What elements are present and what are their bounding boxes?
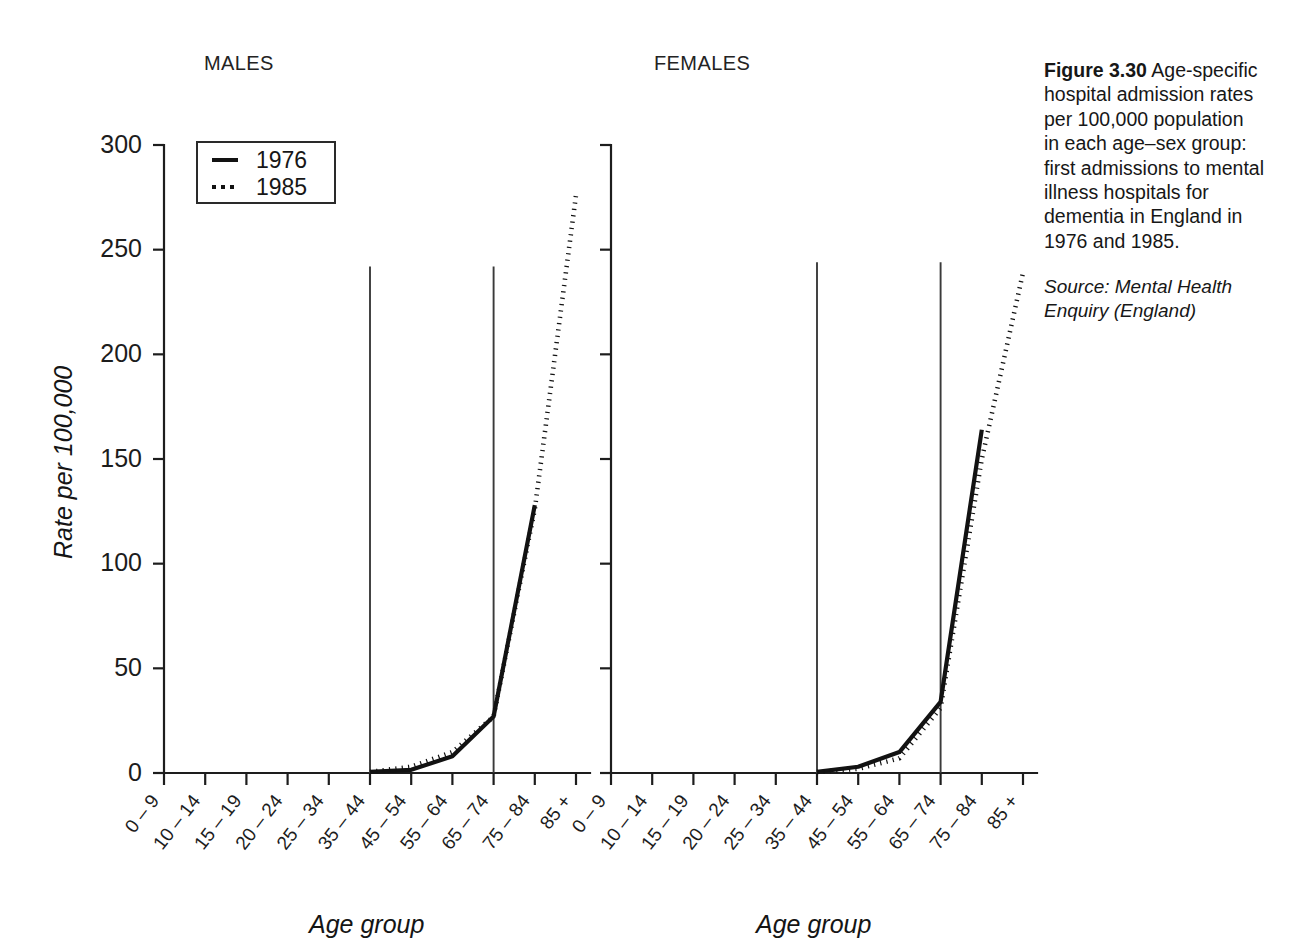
y-axis-tick-label: 300 — [100, 130, 142, 158]
data-series-1985 — [817, 273, 1023, 772]
legend-item-1976: 1976 — [208, 147, 307, 173]
legend-item-1985: 1985 — [208, 174, 307, 200]
y-axis-tick-label: 0 — [128, 758, 142, 786]
legend: 1976 1985 — [196, 141, 336, 204]
y-axis-tick-label: 200 — [100, 339, 142, 367]
legend-label-1976: 1976 — [256, 149, 307, 172]
chart-females: 0 – 910 – 1415 – 1920 – 2425 – 3435 – 44… — [447, 0, 1087, 900]
females-plot: 0 – 910 – 1415 – 1920 – 2425 – 3435 – 44… — [568, 145, 1037, 938]
y-axis-tick-label: 50 — [114, 653, 142, 681]
figure-caption: Figure 3.30 Age-specific hospital admiss… — [1044, 58, 1264, 323]
x-axis-title: Age group — [307, 910, 424, 938]
y-axis-title: Rate per 100,000 — [49, 366, 77, 559]
figure-page: MALES FEMALES 0501001502002503000 – 910 … — [0, 0, 1296, 943]
figure-caption-body: Age-specific hospital admission rates pe… — [1044, 59, 1264, 252]
legend-swatch-solid-icon — [208, 153, 242, 167]
y-axis-tick-label: 100 — [100, 548, 142, 576]
y-axis-tick-label: 150 — [100, 444, 142, 472]
legend-label-1985: 1985 — [256, 176, 307, 199]
legend-swatch-dotted-icon — [208, 180, 242, 194]
x-axis-tick-label: 85 + — [983, 791, 1023, 833]
x-axis-title: Age group — [754, 910, 871, 938]
figure-caption-heading: Figure 3.30 — [1044, 59, 1147, 81]
y-axis-tick-label: 250 — [100, 234, 142, 262]
figure-caption-source: Source: Mental Health Enquiry (England) — [1044, 275, 1264, 323]
data-series-1976 — [817, 430, 982, 772]
